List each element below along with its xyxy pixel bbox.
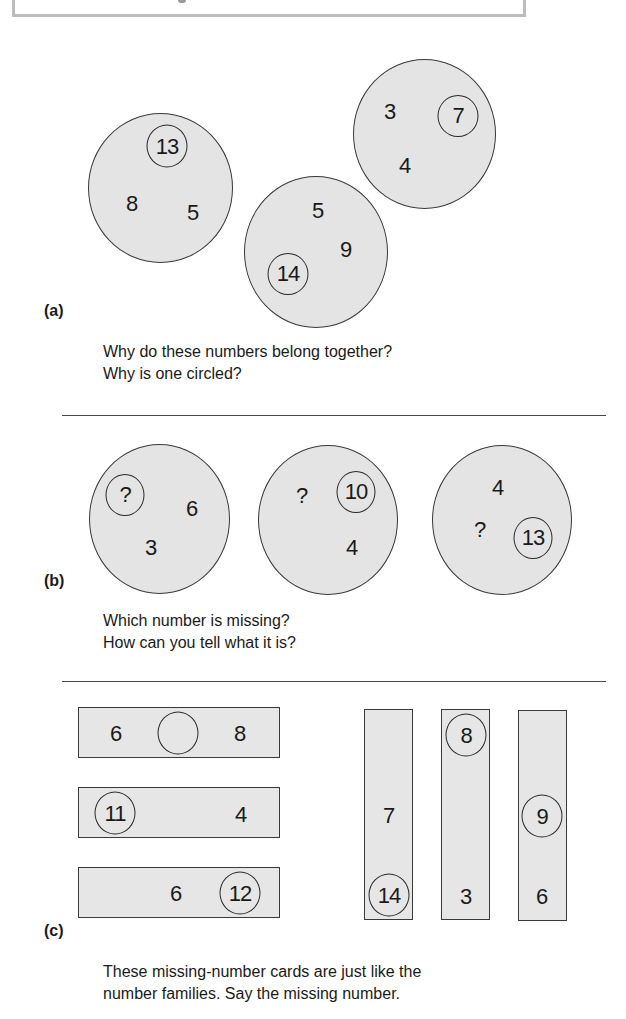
caption-line: Why do these numbers belong together? bbox=[103, 341, 392, 363]
circled-missing-number: ? bbox=[106, 474, 145, 516]
section-caption: These missing-number cards are just like… bbox=[103, 961, 421, 1005]
family-number: 9 bbox=[340, 239, 352, 261]
card-number: 4 bbox=[235, 804, 247, 826]
circled-number: 13 bbox=[147, 125, 188, 168]
circled-number: 14 bbox=[369, 874, 410, 917]
number-family-disc bbox=[89, 444, 230, 594]
number-family-disc bbox=[353, 59, 496, 209]
family-number: 3 bbox=[145, 537, 157, 559]
card-number: 6 bbox=[536, 886, 548, 908]
circled-number: 7 bbox=[438, 95, 479, 137]
section-caption: Which number is missing? How can you tel… bbox=[103, 610, 296, 654]
section-label: (a) bbox=[44, 302, 64, 320]
circled-number: 11 bbox=[95, 792, 136, 835]
caption-line: Which number is missing? bbox=[103, 610, 296, 632]
empty-circle-missing bbox=[158, 712, 199, 755]
family-number: 5 bbox=[312, 200, 324, 222]
circled-number: 13 bbox=[514, 517, 553, 559]
circled-number: 9 bbox=[522, 795, 563, 838]
circled-number: 12 bbox=[220, 872, 261, 915]
circled-number: 14 bbox=[268, 253, 309, 295]
family-number: 4 bbox=[492, 477, 504, 499]
family-number: 8 bbox=[126, 193, 138, 215]
family-number: 4 bbox=[399, 155, 411, 177]
family-number: 4 bbox=[346, 537, 358, 559]
missing-number: ? bbox=[474, 519, 486, 541]
caption-line: Why is one circled? bbox=[103, 363, 392, 385]
circled-number: 8 bbox=[446, 714, 487, 757]
caption-line: How can you tell what it is? bbox=[103, 632, 296, 654]
card-number: 6 bbox=[170, 883, 182, 905]
circled-number: 10 bbox=[337, 471, 376, 513]
section-divider bbox=[62, 415, 606, 416]
card-number: 8 bbox=[234, 723, 246, 745]
section-label: (b) bbox=[44, 572, 64, 590]
caption-line: number families. Say the missing number. bbox=[103, 983, 421, 1005]
section-caption: Why do these numbers belong together? Wh… bbox=[103, 341, 392, 385]
number-family-disc bbox=[258, 445, 398, 595]
section-label: (c) bbox=[44, 922, 64, 940]
card-number: 6 bbox=[110, 723, 122, 745]
section-divider bbox=[62, 681, 606, 682]
card-number: 3 bbox=[460, 886, 472, 908]
number-family-disc bbox=[432, 445, 572, 595]
family-number: 5 bbox=[187, 202, 199, 224]
heading-frame bbox=[12, 0, 526, 17]
family-number: 3 bbox=[384, 101, 396, 123]
family-number: 6 bbox=[186, 498, 198, 520]
caption-line: These missing-number cards are just like… bbox=[103, 961, 421, 983]
missing-number: ? bbox=[296, 485, 308, 507]
card-number: 7 bbox=[383, 805, 395, 827]
